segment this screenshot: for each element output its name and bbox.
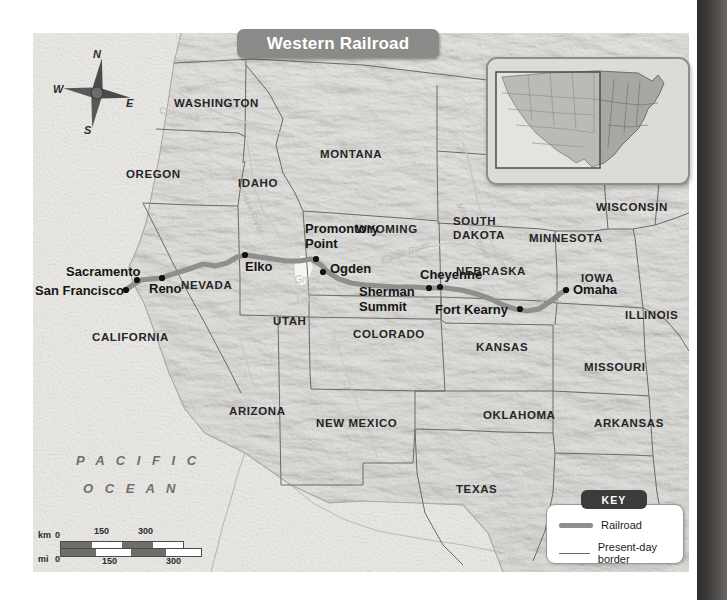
lake-line-3: Lake: [285, 295, 329, 305]
compass-star-icon: [55, 50, 139, 136]
state-label-idaho: IDAHO: [238, 177, 278, 189]
state-label-montana: MONTANA: [320, 148, 382, 160]
scale-mi-tick-150: 150: [102, 556, 117, 566]
state-label-oregon: OREGON: [126, 168, 181, 180]
compass-south-label: S: [84, 124, 91, 136]
compass-east-label: E: [126, 97, 133, 109]
scale-unit-mi: mi: [38, 554, 49, 564]
state-label-illinois: ILLINOIS: [625, 309, 678, 321]
state-label-oklahoma: OKLAHOMA: [483, 409, 556, 421]
legend-label-railroad: Railroad: [601, 519, 642, 531]
state-label-missouri: MISSOURI: [584, 361, 646, 373]
lake-label-great-salt-lake: Great Salt Lake: [285, 275, 329, 305]
map-legend: Railroad Present-day border: [546, 504, 684, 564]
state-label-california: CALIFORNIA: [92, 331, 169, 343]
city-label-reno: Reno: [149, 281, 182, 296]
state-label-minnesota: MINNESOTA: [529, 232, 603, 244]
legend-item-railroad: Railroad: [559, 519, 642, 531]
city-label-fort-kearny: Fort Kearny: [435, 302, 508, 317]
state-label-south-dakota: SOUTHDAKOTA: [453, 214, 515, 242]
scale-km-tick-300: 300: [138, 526, 153, 536]
railroad-swatch-icon: [559, 523, 593, 528]
scale-mi-tick-0: 0: [55, 554, 60, 564]
scale-km-tick-150: 150: [94, 526, 109, 536]
scale-km-tick-0: 0: [55, 530, 60, 540]
city-label-sacramento: Sacramento: [66, 264, 140, 279]
city-label-ogden: Ogden: [330, 261, 371, 276]
compass-west-label: W: [53, 83, 63, 95]
page-title: Western Railroad: [267, 34, 410, 54]
city-label-cheyenne: Cheyenne: [420, 267, 482, 282]
state-label-texas: TEXAS: [456, 483, 497, 495]
ocean-label: P A C I F I C: [76, 453, 200, 468]
scale-mi-tick-300: 300: [166, 556, 181, 566]
key-tab-label: KEY: [602, 494, 627, 506]
compass-north-label: N: [93, 48, 101, 60]
ocean-label-2: O C E A N: [83, 481, 179, 496]
page-binding-shadow: [697, 0, 727, 600]
state-label-arkansas: ARKANSAS: [594, 417, 664, 429]
inset-locator-map[interactable]: [486, 57, 690, 185]
legend-label-border: Present-day border: [598, 541, 683, 565]
key-tab: KEY: [581, 490, 647, 509]
inset-map-graphic: [488, 59, 688, 183]
compass-rose: N E S W: [55, 50, 139, 136]
state-label-colorado: COLORADO: [353, 328, 425, 340]
city-label-promontory-point: PromontoryPoint: [305, 221, 405, 251]
state-label-kansas: KANSAS: [476, 341, 528, 353]
state-label-washington: WASHINGTON: [174, 97, 259, 109]
scale-bar: km 0 150 300 mi 0 150 300: [38, 528, 198, 566]
state-label-wisconsin: WISCONSIN: [596, 201, 668, 213]
legend-item-border: Present-day border: [559, 541, 683, 565]
state-label-nevada: NEVADA: [181, 279, 232, 291]
state-label-new-mexico: NEW MEXICO: [316, 417, 397, 429]
scale-unit-km: km: [38, 530, 51, 540]
map-page: P A C I F I C O C E A N Great Salt Lake …: [0, 0, 727, 600]
city-label-elko: Elko: [245, 259, 272, 274]
state-label-arizona: ARIZONA: [229, 405, 286, 417]
border-swatch-icon: [559, 553, 590, 554]
state-label-utah: UTAH: [273, 315, 307, 327]
city-label-san-francisco: San Francisco: [35, 283, 124, 298]
page-edge: [689, 0, 697, 600]
map-title-banner: Western Railroad: [237, 29, 439, 58]
city-label-omaha: Omaha: [573, 282, 617, 297]
